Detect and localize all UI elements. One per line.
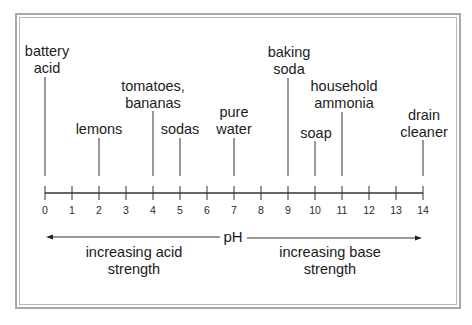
acid-arrow-head bbox=[46, 235, 53, 240]
marker-tomatoes-bananas: tomatoes, bananas bbox=[121, 78, 185, 112]
tick-label-4: 4 bbox=[150, 204, 156, 216]
base-strength-label: increasing base strength bbox=[279, 244, 381, 278]
marker-label-line: pure bbox=[216, 104, 251, 121]
marker-pure-water: pure water bbox=[216, 104, 251, 138]
marker-soap: soap bbox=[300, 125, 331, 142]
tick-label-7: 7 bbox=[231, 204, 237, 216]
marker-label-line: bananas bbox=[121, 95, 185, 112]
marker-label-line: battery bbox=[25, 43, 69, 60]
tick-label-13: 13 bbox=[390, 204, 402, 216]
tick-label-0: 0 bbox=[42, 204, 48, 216]
marker-label-line: baking bbox=[268, 44, 311, 61]
ph-axis-label: pH bbox=[223, 228, 242, 245]
tick-label-11: 11 bbox=[337, 204, 348, 216]
marker-household-ammonia: household ammonia bbox=[311, 78, 378, 112]
tick-label-1: 1 bbox=[69, 204, 75, 216]
marker-lemons: lemons bbox=[76, 121, 123, 138]
marker-label-line: soda bbox=[268, 61, 311, 78]
marker-label-line: drain bbox=[400, 107, 448, 124]
marker-label-line: household bbox=[311, 78, 378, 95]
marker-label-line: tomatoes, bbox=[121, 78, 185, 95]
tick-label-6: 6 bbox=[204, 204, 210, 216]
tick-label-5: 5 bbox=[177, 204, 183, 216]
acid-label-line: increasing acid bbox=[86, 244, 183, 261]
marker-drain-cleaner: drain cleaner bbox=[400, 107, 448, 141]
marker-label-line: cleaner bbox=[400, 124, 448, 141]
marker-label-line: soap bbox=[300, 125, 331, 142]
tick-label-9: 9 bbox=[285, 204, 291, 216]
base-arrow-head bbox=[415, 236, 422, 241]
acid-label-line: strength bbox=[86, 261, 183, 278]
marker-baking-soda: baking soda bbox=[268, 44, 311, 78]
number-line-graphics bbox=[0, 0, 472, 325]
tick-label-3: 3 bbox=[123, 204, 129, 216]
marker-label-line: water bbox=[216, 121, 251, 138]
acid-strength-label: increasing acid strength bbox=[86, 244, 183, 278]
base-label-line: strength bbox=[279, 261, 381, 278]
tick-label-2: 2 bbox=[96, 204, 102, 216]
tick-label-8: 8 bbox=[258, 204, 264, 216]
marker-label-line: lemons bbox=[76, 121, 123, 138]
tick-label-14: 14 bbox=[417, 204, 429, 216]
tick-label-12: 12 bbox=[363, 204, 375, 216]
marker-label-line: ammonia bbox=[311, 95, 378, 112]
tick-label-10: 10 bbox=[309, 204, 321, 216]
marker-sodas: sodas bbox=[161, 121, 200, 138]
marker-label-line: acid bbox=[25, 60, 69, 77]
marker-label-line: sodas bbox=[161, 121, 200, 138]
marker-battery-acid: battery acid bbox=[25, 43, 69, 77]
base-label-line: increasing base bbox=[279, 244, 381, 261]
